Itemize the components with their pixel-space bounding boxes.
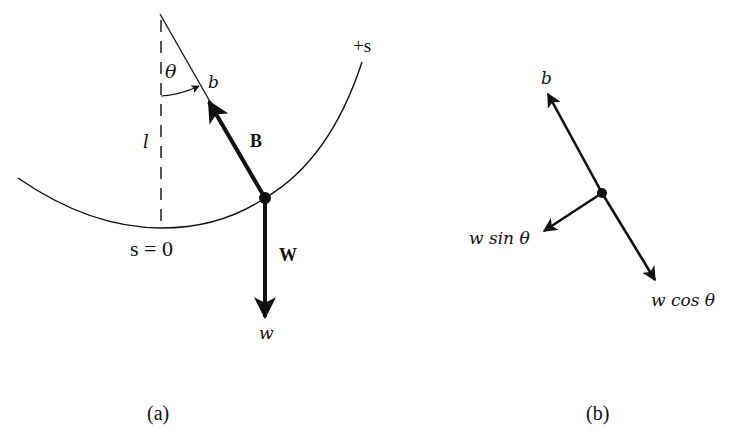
force-arrow-w-cos-theta [602, 193, 655, 280]
label-b-b: b [541, 68, 552, 88]
pendulum-bob [259, 192, 271, 204]
force-arrow-w-sin-theta [544, 193, 602, 231]
force-arrow-b [548, 94, 602, 193]
point-mass [597, 188, 607, 198]
caption-b: (b) [586, 402, 609, 425]
label-s-zero: s = 0 [130, 236, 173, 261]
label-w: w [259, 323, 274, 343]
caption-a: (a) [147, 402, 169, 425]
label-plus-s: +s [353, 35, 371, 56]
label-l: l [143, 131, 149, 152]
panel-a: θ b +s l B s = 0 W w (a) [18, 14, 371, 425]
pendulum-force-diagram: θ b +s l B s = 0 W w (a) b w sin θ w cos… [0, 0, 730, 432]
label-b-a: b [208, 72, 219, 92]
label-W: W [279, 245, 297, 265]
theta-angle-arc [161, 86, 199, 96]
label-B: B [250, 131, 262, 151]
label-w-sin-theta: w sin θ [469, 228, 530, 248]
label-theta: θ [165, 60, 177, 82]
label-w-cos-theta: w cos θ [651, 290, 715, 310]
arc-path [18, 62, 362, 228]
panel-b: b w sin θ w cos θ (b) [469, 68, 715, 425]
